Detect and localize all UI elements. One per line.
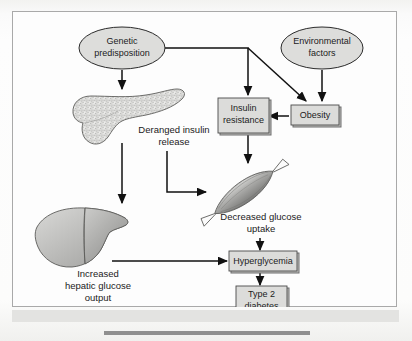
label-decreased-glucose-uptake-line2: uptake [247,223,276,234]
node-hyperglycemia[interactable]: Hyperglycemia [229,251,299,273]
node-insulin-resistance[interactable]: Insulin resistance [218,98,271,135]
connector-layer [112,48,322,285]
label-increased-hepatic-glucose-output-line3: output [85,292,112,303]
label-increased-hepatic-glucose-output-line1: Increased [77,268,119,279]
edge-genetic-to-insulin-resistance [159,48,248,95]
node-genetic-predisposition[interactable]: Genetic predisposition [79,27,165,69]
label-deranged-insulin-release-line1: Deranged insulin [138,124,209,135]
node-type-2-diabetes[interactable]: Type 2 diabetes [236,286,289,307]
label-increased-hepatic-glucose-output-line2: hepatic glucose [65,280,131,291]
node-type-2-diabetes-line2: diabetes [244,301,279,307]
node-insulin-resistance-line2: resistance [223,115,264,125]
label-increased-hepatic-glucose-output: Increased hepatic glucose output [65,268,131,303]
node-obesity-label: Obesity [300,110,331,120]
liver-illustration [35,208,128,267]
label-deranged-insulin-release-line2: release [158,136,189,147]
node-environmental-factors[interactable]: Environmental factors [281,27,363,69]
type-2-diabetes-pathogenesis-diagram: Genetic predisposition Environmental fac… [12,11,397,307]
node-genetic-predisposition-line1: Genetic [106,36,138,46]
node-environmental-factors-line2: factors [308,48,336,58]
scanned-page: Genetic predisposition Environmental fac… [0,0,412,341]
label-decreased-glucose-uptake: Decreased glucose uptake [220,211,301,234]
page-gutter-bar [12,310,399,322]
node-insulin-resistance-line1: Insulin [230,103,256,113]
node-obesity[interactable]: Obesity [291,105,341,127]
node-type-2-diabetes-line1: Type 2 [248,289,275,299]
node-hyperglycemia-label: Hyperglycemia [233,256,293,266]
node-genetic-predisposition-line2: predisposition [94,48,150,58]
edge-deranged-release-to-muscle [167,151,206,192]
node-environmental-factors-line1: Environmental [293,36,351,46]
label-deranged-insulin-release: Deranged insulin release [138,124,209,147]
label-decreased-glucose-uptake-line1: Decreased glucose [220,211,301,222]
caption-rule [104,331,310,335]
